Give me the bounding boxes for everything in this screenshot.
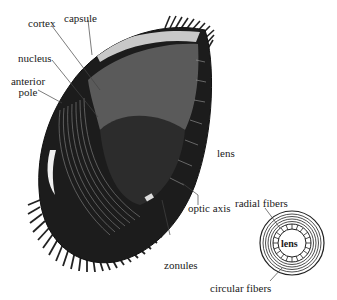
label-zonules: zonules <box>164 260 198 271</box>
inset-center-label: lens <box>281 238 298 249</box>
label-nucleus: nucleus <box>18 53 52 64</box>
label-anterior-pole: anterior pole <box>10 76 46 98</box>
label-radial-fibers: radial fibers <box>235 198 288 209</box>
label-optic-axis: optic axis <box>188 203 230 214</box>
label-pole: pole <box>10 87 46 98</box>
label-cortex: cortex <box>28 18 55 29</box>
lens-diagram: cortex capsule nucleus anterior pole len… <box>0 0 337 300</box>
label-lens: lens <box>217 148 235 159</box>
label-circular-fibers: circular fibers <box>210 283 271 294</box>
label-capsule: capsule <box>64 13 97 24</box>
lens-illustration <box>0 0 337 300</box>
